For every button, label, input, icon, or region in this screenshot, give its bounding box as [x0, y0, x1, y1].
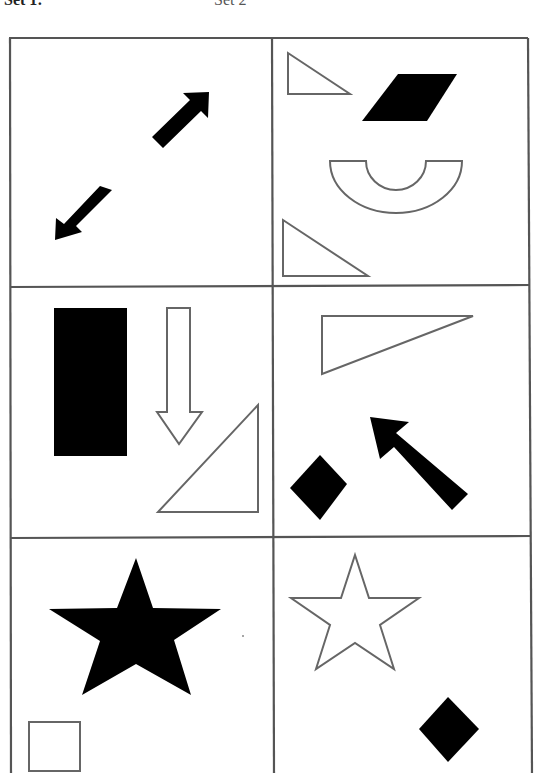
solid-parallelogram-shape [362, 74, 457, 121]
outline-long-triangle-shape [322, 316, 473, 374]
speck-dot [242, 635, 244, 637]
outline-triangle-bottom-right-shape [158, 405, 258, 512]
panel-r2c2 [290, 316, 473, 520]
panel-r3c1 [29, 558, 244, 771]
outline-arrow-down-shape [157, 308, 202, 444]
outline-small-square-shape [29, 722, 80, 771]
panel-r1c1 [55, 92, 209, 240]
solid-arrow-up-right-shape [152, 92, 209, 148]
shape-grid [0, 0, 544, 773]
solid-arrow-down-left-shape [55, 186, 112, 240]
panel-r1c2 [283, 53, 462, 276]
outline-small-triangle-shape [288, 53, 350, 94]
outline-half-ring-shape [330, 161, 462, 213]
panel-r2c1 [54, 308, 258, 512]
solid-rectangle-shape [54, 308, 127, 456]
outline-star-shape [291, 555, 419, 669]
panel-r3c2 [291, 555, 479, 762]
solid-diamond-right-shape [419, 697, 479, 762]
solid-star-shape [49, 558, 221, 695]
solid-diamond-left-shape [290, 455, 347, 520]
solid-arrow-up-left-shape [370, 417, 468, 510]
outline-triangle-bottom-left-shape [283, 220, 368, 276]
